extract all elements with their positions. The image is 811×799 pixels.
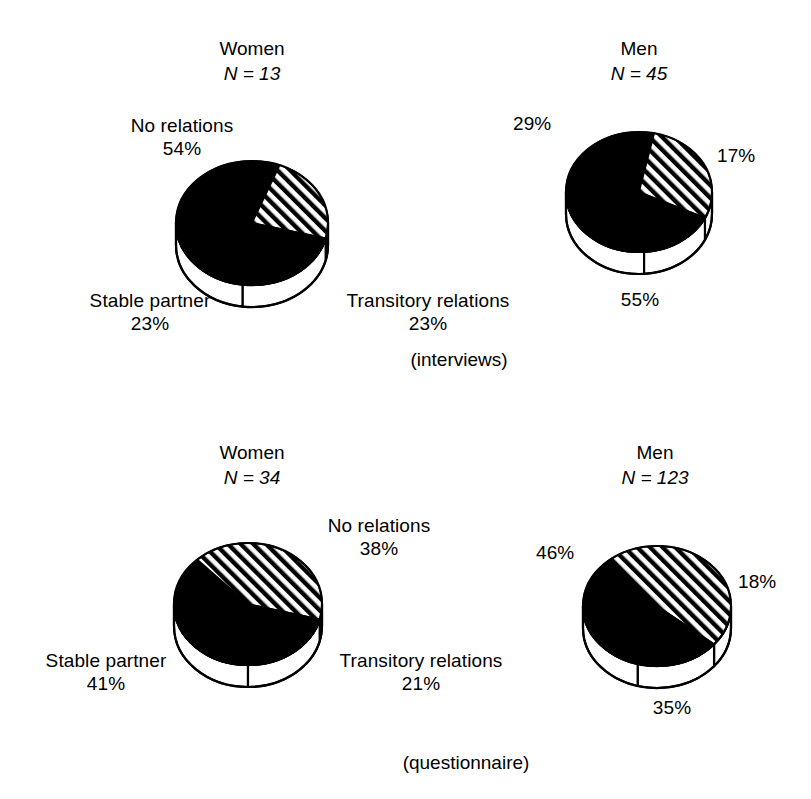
panel-title-men-interviews: Men N = 45 (611, 36, 668, 86)
label-pct: 38% (328, 537, 431, 560)
label-transitory-women-interviews: Transitory relations 23% (347, 289, 510, 335)
pie-chart-women-interviews (170, 155, 338, 305)
label-stable-partner-men-interviews: 29% (513, 112, 551, 135)
panel-n-text: N = 34 (219, 465, 284, 490)
label-text: No relations (131, 114, 234, 137)
panel-title-text: Women (219, 36, 284, 61)
label-pct: 23% (347, 312, 510, 335)
caption-questionnaire: (questionnaire) (403, 752, 530, 774)
panel-title-text: Men (621, 440, 688, 465)
label-text: Transitory relations (340, 649, 503, 672)
label-pct: 21% (340, 672, 503, 695)
label-transitory-men-questionnaire: 18% (738, 570, 776, 593)
label-pct: 46% (536, 541, 574, 564)
panel-title-men-questionnaire: Men N = 123 (621, 440, 688, 490)
pie-chart-men-questionnaire (578, 542, 738, 688)
label-stable-partner-women-questionnaire: Stable partner 41% (46, 649, 167, 695)
pie-chart-men-interviews (561, 128, 719, 270)
label-transitory-women-questionnaire: Transitory relations 21% (340, 649, 503, 695)
label-text: Stable partner (46, 649, 167, 672)
label-pct: 29% (513, 112, 551, 135)
label-no-relations-men-questionnaire: 35% (653, 696, 691, 719)
label-no-relations-women-interviews: No relations 54% (131, 114, 234, 160)
label-stable-partner-men-questionnaire: 46% (536, 541, 574, 564)
label-text: Transitory relations (347, 289, 510, 312)
panel-title-text: Women (219, 440, 284, 465)
caption-interviews: (interviews) (410, 349, 507, 371)
label-no-relations-women-questionnaire: No relations 38% (328, 514, 431, 560)
panel-title-women-questionnaire: Women N = 34 (219, 440, 284, 490)
label-pct: 23% (90, 312, 211, 335)
panel-n-text: N = 123 (621, 465, 688, 490)
panel-title-text: Men (611, 36, 668, 61)
label-text: No relations (328, 514, 431, 537)
label-pct: 17% (717, 144, 755, 167)
label-pct: 35% (653, 696, 691, 719)
panel-n-text: N = 13 (219, 61, 284, 86)
label-pct: 55% (621, 288, 659, 311)
label-pct: 41% (46, 672, 167, 695)
pie-chart-women-questionnaire (168, 538, 332, 688)
panel-n-text: N = 45 (611, 61, 668, 86)
label-pct: 18% (738, 570, 776, 593)
label-no-relations-men-interviews: 55% (621, 288, 659, 311)
panel-title-women-interviews: Women N = 13 (219, 36, 284, 86)
label-transitory-men-interviews: 17% (717, 144, 755, 167)
figure-canvas: Women N = 13 No relations 54% Stable par… (0, 0, 811, 799)
